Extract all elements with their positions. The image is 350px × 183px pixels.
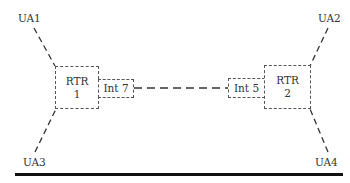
link-ua1-rtr1: [34, 28, 55, 66]
ua3-label: UA3: [23, 156, 46, 168]
ua1-label: UA1: [18, 12, 41, 24]
link-ua2-rtr2: [310, 28, 328, 66]
router-2-number: 2: [276, 87, 299, 100]
router-1-box: RTR 1: [55, 66, 99, 109]
link-ua3-rtr1: [35, 109, 56, 152]
ua4-label: UA4: [315, 156, 338, 168]
router-2-name: RTR: [276, 74, 299, 87]
interface-7-box: Int 7: [98, 79, 134, 98]
ua2-label: UA2: [318, 12, 341, 24]
interface-7-label: Int 7: [103, 82, 128, 95]
router-1-name: RTR: [66, 75, 89, 88]
router-2-box: RTR 2: [264, 65, 311, 109]
bottom-rule-divider: [15, 173, 343, 176]
link-ua4-rtr2: [310, 109, 328, 152]
interface-5-box: Int 5: [228, 78, 265, 98]
router-1-number: 1: [66, 88, 89, 101]
interface-5-label: Int 5: [234, 82, 259, 95]
